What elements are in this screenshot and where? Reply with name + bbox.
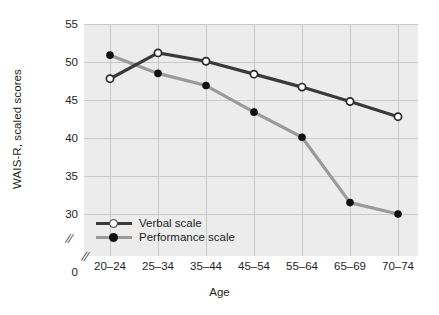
gridline-vertical (254, 24, 255, 256)
x-axis-tick-label: 55–64 (286, 260, 318, 272)
legend-marker (96, 216, 132, 230)
gridline-horizontal (84, 176, 418, 177)
y-axis-break-mark: // (65, 231, 72, 247)
gridline-horizontal (84, 24, 418, 25)
x-axis-title: Age (0, 286, 439, 298)
gridline-horizontal (84, 100, 418, 101)
y-axis-title: WAIS-R, scaled scores (11, 69, 23, 189)
gridline-horizontal (84, 138, 418, 139)
y-axis-tick-label: 55 (38, 18, 78, 30)
y-axis-title-wrapper: WAIS-R, scaled scores (6, 24, 28, 234)
gridline-vertical (398, 24, 399, 256)
legend-item[interactable]: Performance scale (96, 230, 235, 244)
x-axis-tick-label: 65–69 (334, 260, 366, 272)
legend-marker (96, 230, 132, 244)
legend-item[interactable]: Verbal scale (96, 216, 235, 230)
chart-legend: Verbal scalePerformance scale (96, 216, 235, 244)
x-axis-tick-label: 70–74 (382, 260, 414, 272)
y-axis-tick-label: 35 (38, 170, 78, 182)
x-axis-tick-label: 45–54 (238, 260, 270, 272)
gridline-vertical (350, 24, 351, 256)
x-axis-tick-label: 20–24 (94, 260, 126, 272)
legend-open-circle-icon (109, 219, 118, 228)
legend-label: Performance scale (139, 230, 235, 244)
y-axis-tick-label: 50 (38, 56, 78, 68)
y-axis-tick-label: 45 (38, 94, 78, 106)
y-axis-tick-label: 40 (38, 132, 78, 144)
gridline-horizontal (84, 214, 418, 215)
legend-label: Verbal scale (139, 216, 202, 230)
y-axis-tick-label: 0 (38, 266, 78, 278)
gridline-horizontal (84, 62, 418, 63)
x-axis-break-mark: // (81, 249, 88, 265)
legend-filled-circle-icon (109, 233, 118, 242)
x-axis-tick-label: 35–44 (190, 260, 222, 272)
gridline-vertical (302, 24, 303, 256)
chart-container: WAIS-R, scaled scores 5550454035300 20–2… (0, 0, 439, 315)
x-axis-tick-label: 25–34 (142, 260, 174, 272)
y-axis-tick-label: 30 (38, 208, 78, 220)
